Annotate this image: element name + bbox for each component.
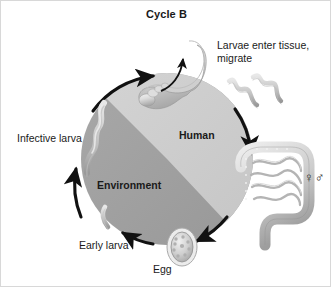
arrow-to-infective-larva [75,169,81,217]
cycle-diagram-figure: Cycle B [0,0,331,287]
label-environment-sector: Environment [97,179,161,192]
label-early-larva: Early larva [79,239,129,252]
label-larvae-enter: Larvae enter tissue, migrate [217,39,321,64]
label-infective-larva: Infective larva [17,132,82,145]
egg-illustration [167,228,197,266]
label-egg: Egg [153,263,172,276]
label-human-sector: Human [179,129,215,142]
sex-symbols-label: ♀♂ [304,171,326,185]
